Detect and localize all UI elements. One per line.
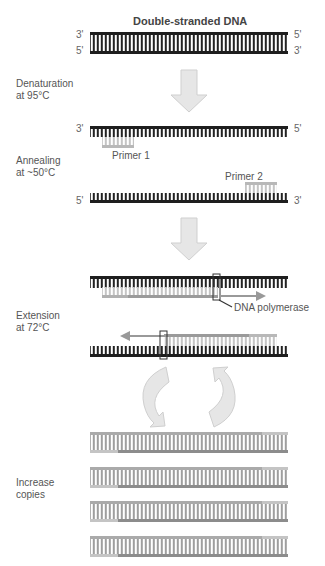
extension-strand-bottom bbox=[90, 331, 288, 359]
step-label-line1: Annealing bbox=[16, 155, 60, 167]
dna-copy bbox=[90, 432, 288, 453]
cycle-arrows-icon bbox=[143, 367, 235, 427]
end-label: 5' bbox=[76, 45, 83, 56]
diagram-title: Double-stranded DNA bbox=[133, 15, 247, 27]
end-label: 3' bbox=[76, 29, 83, 40]
end-label: 5' bbox=[76, 195, 83, 206]
end-label: 3' bbox=[76, 123, 83, 134]
dna-copy bbox=[90, 536, 288, 557]
step-label-line2: copies bbox=[16, 489, 54, 501]
double-stranded-dna bbox=[90, 32, 288, 54]
step-label-line1: Extension bbox=[16, 310, 60, 322]
down-arrow-icon bbox=[171, 70, 207, 112]
step-annealing: Annealing at ~50°C bbox=[16, 155, 60, 179]
end-label: 3' bbox=[294, 45, 301, 56]
end-label: 5' bbox=[294, 29, 301, 40]
dna-polymerase-label: DNA polymerase bbox=[234, 302, 309, 313]
primer-1-label: Primer 1 bbox=[112, 150, 150, 161]
down-arrow-icon bbox=[171, 218, 207, 260]
denatured-strand-top bbox=[90, 126, 288, 148]
step-label-line1: Increase bbox=[16, 477, 54, 489]
step-increase-copies: Increase copies bbox=[16, 477, 54, 501]
end-label: 5' bbox=[294, 123, 301, 134]
step-label-line2: at 95°C bbox=[16, 90, 73, 102]
step-label-line2: at ~50°C bbox=[16, 167, 60, 179]
denatured-strand-bottom bbox=[90, 182, 288, 203]
end-label: 3' bbox=[294, 195, 301, 206]
primer-2-label: Primer 2 bbox=[225, 171, 263, 182]
step-denaturation: Denaturation at 95°C bbox=[16, 78, 73, 102]
dna-copy bbox=[90, 501, 288, 522]
step-extension: Extension at 72°C bbox=[16, 310, 60, 334]
dna-copy bbox=[90, 467, 288, 488]
step-label-line1: Denaturation bbox=[16, 78, 73, 90]
step-label-line2: at 72°C bbox=[16, 322, 60, 334]
